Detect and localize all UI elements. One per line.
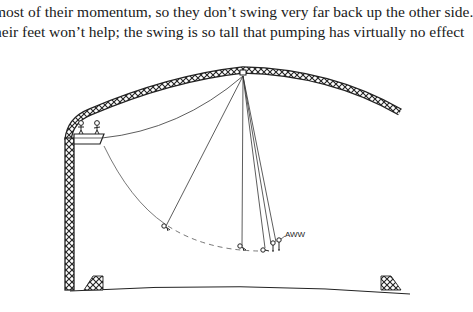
pivot-block	[240, 70, 246, 75]
stick-figure-left	[78, 121, 84, 134]
left-tower	[65, 138, 74, 290]
ground-line	[70, 287, 410, 294]
swinger-position	[271, 241, 275, 251]
left-net	[84, 276, 103, 290]
swinger-position	[277, 238, 281, 250]
stick-figure-right	[94, 121, 100, 134]
trajectory-dashed	[168, 226, 258, 251]
swinger-position	[261, 248, 269, 252]
right-net	[381, 276, 401, 290]
truss-arch	[68, 70, 400, 140]
swinger-position	[162, 224, 170, 231]
swing-ropes	[166, 76, 276, 248]
aww-caption: AWW	[285, 230, 306, 239]
launch-platform	[74, 134, 104, 144]
trajectory-arc	[104, 146, 165, 224]
